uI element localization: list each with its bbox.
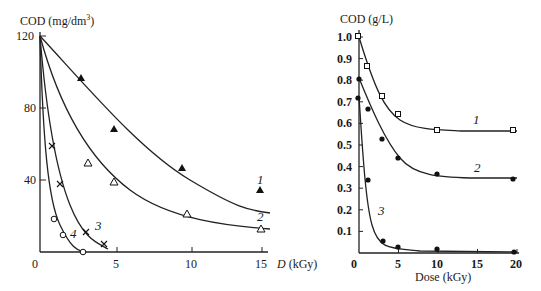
right-series-1-markers [356,34,516,133]
left-ytick-120: 120 [16,29,34,43]
left-xtick-15: 15 [255,257,267,271]
right-chart: COD (g/L) 1.0 0.9 0.8 0.7 0.6 0.5 0.4 0.… [337,12,522,284]
left-xtick-5: 5 [113,257,119,271]
right-curve-label-2: 2 [474,160,481,175]
right-ytick-1.0: 1.0 [337,30,352,44]
left-curve-label-1: 1 [257,172,264,187]
left-curve-label-3: 3 [94,218,102,233]
left-xtick-0: 0 [32,257,38,271]
right-xtick-15: 15 [471,257,483,271]
right-xtick-5: 5 [395,257,401,271]
left-curve-label-2: 2 [257,209,264,224]
right-ytick-0.7: 0.7 [337,95,352,109]
right-x-axis-label: Dose (kGy) [415,270,471,284]
right-xtick-0: 0 [351,257,357,271]
left-ytick-40: 40 [24,173,36,187]
right-xtick-20: 20 [510,257,522,271]
right-ytick-0.9: 0.9 [337,52,352,66]
left-xtick-10: 10 [185,257,197,271]
right-curve-label-1: 1 [473,112,480,127]
right-ytick-0.6: 0.6 [337,116,352,130]
left-curve-label-4: 4 [70,226,77,241]
left-x-axis-label: D (kGy) [276,257,317,271]
right-ytick-0.1: 0.1 [337,224,352,238]
left-series-4-markers [51,216,86,255]
left-curve-2 [40,36,270,229]
right-xtick-10: 10 [431,257,443,271]
left-series-1-markers [77,74,264,193]
right-ytick-0.2: 0.2 [337,203,352,217]
figure: COD (mg/dm3) 120 80 40 0 5 10 15 D (kGy) [0,0,541,291]
left-ytick-80: 80 [24,101,36,115]
right-curve-1 [359,37,517,131]
right-ytick-0.8: 0.8 [337,73,352,87]
left-chart: COD (mg/dm3) 120 80 40 0 5 10 15 D (kGy) [16,13,317,271]
right-curve-label-3: 3 [377,203,385,218]
right-y-axis-label: COD (g/L) [340,12,393,26]
left-y-axis-label: COD (mg/dm3) [20,13,94,28]
right-ytick-0.3: 0.3 [337,181,352,195]
right-ytick-0.5: 0.5 [337,138,352,152]
right-ytick-0.4: 0.4 [337,160,352,174]
